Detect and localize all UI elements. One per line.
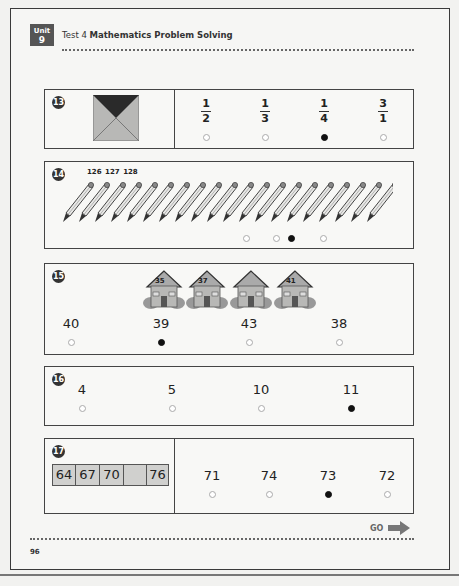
answer-bubble[interactable]	[203, 134, 210, 141]
test-label: Test 4	[62, 30, 87, 40]
answer-option[interactable]: 31	[368, 98, 398, 145]
answer-option[interactable]: 39	[135, 316, 187, 350]
house-number: 41	[286, 277, 296, 285]
question-14: 14 126 127 128	[44, 161, 414, 249]
fraction: 13	[260, 98, 270, 125]
question-divider	[174, 90, 175, 148]
answer-option[interactable]: 40	[45, 316, 97, 350]
answer-bubble-selected[interactable]	[348, 405, 355, 412]
fraction: 14	[319, 98, 329, 125]
answer-bubble[interactable]	[336, 339, 343, 346]
unit-label: Unit	[34, 27, 50, 35]
subject-label: Mathematics Problem Solving	[90, 30, 233, 40]
answer-option[interactable]: 12	[191, 98, 221, 145]
answer-bubble[interactable]	[384, 491, 391, 498]
go-label: GO	[370, 524, 383, 533]
answer-bubble[interactable]	[258, 405, 265, 412]
question-number: 15	[52, 270, 65, 283]
answer-option[interactable]: 14	[309, 98, 339, 145]
page-edge	[0, 574, 459, 576]
page-title: Test 4 Mathematics Problem Solving	[62, 30, 233, 40]
pencil-count-labels: 126 127 128	[87, 168, 138, 176]
answer-bubble[interactable]	[266, 491, 273, 498]
question-17: 17 64 67 70 76 71 74 73 72	[44, 438, 414, 514]
house-number: 37	[198, 277, 208, 285]
question-number: 16	[52, 373, 65, 386]
go-indicator: GO	[370, 521, 410, 535]
answer-bubble[interactable]	[262, 134, 269, 141]
answer-bubble[interactable]	[79, 405, 86, 412]
sequence-cell-blank	[124, 465, 147, 485]
fraction: 12	[201, 98, 211, 125]
fraction: 31	[378, 98, 388, 125]
pencils-figure	[63, 180, 393, 226]
answer-option[interactable]: 11	[336, 382, 366, 416]
answer-bubble[interactable]	[169, 405, 176, 412]
answer-option[interactable]: 10	[246, 382, 276, 416]
question-13: 13 12 13 14 31	[44, 89, 414, 149]
answer-option[interactable]: 13	[250, 98, 280, 145]
answer-bubble-selected[interactable]	[158, 339, 165, 346]
unit-badge: Unit 9	[30, 24, 54, 46]
answer-option[interactable]: 4	[67, 382, 97, 416]
sequence-cell: 67	[76, 465, 100, 485]
answer-bubble-selected[interactable]	[288, 235, 295, 242]
answer-bubble-selected[interactable]	[325, 491, 332, 498]
answer-option[interactable]: 74	[254, 468, 284, 502]
answer-option[interactable]: 73	[313, 468, 343, 502]
question-15: 15 35 37 41 40 39 43 38	[44, 263, 414, 355]
answer-bubble[interactable]	[273, 235, 280, 242]
answer-bubble[interactable]	[68, 339, 75, 346]
footer-dotted-rule	[30, 538, 414, 540]
answer-option[interactable]: 38	[313, 316, 365, 350]
shaded-square-figure	[93, 95, 139, 141]
answer-bubble[interactable]	[246, 339, 253, 346]
number-sequence-strip: 64 67 70 76	[52, 464, 169, 486]
answer-bubble-selected[interactable]	[321, 134, 328, 141]
question-16: 16 4 5 10 11	[44, 366, 414, 426]
header-dotted-rule	[62, 49, 414, 51]
answer-bubble[interactable]	[243, 235, 250, 242]
sequence-cell: 64	[53, 465, 76, 485]
answer-option[interactable]: 43	[223, 316, 275, 350]
houses-figure	[142, 270, 322, 310]
question-number: 17	[52, 445, 65, 458]
answer-bubble[interactable]	[380, 134, 387, 141]
house-number: 35	[155, 277, 165, 285]
question-divider	[174, 439, 175, 513]
answer-bubble[interactable]	[320, 235, 327, 242]
answer-option[interactable]: 5	[157, 382, 187, 416]
sequence-cell: 70	[100, 465, 124, 485]
page-number: 96	[30, 548, 40, 556]
arrow-right-icon	[388, 521, 410, 535]
answer-option[interactable]: 71	[197, 468, 227, 502]
question-number: 13	[52, 96, 65, 109]
sequence-cell: 76	[147, 465, 168, 485]
answer-bubble[interactable]	[209, 491, 216, 498]
answer-option[interactable]: 72	[372, 468, 402, 502]
unit-number: 9	[30, 36, 54, 45]
